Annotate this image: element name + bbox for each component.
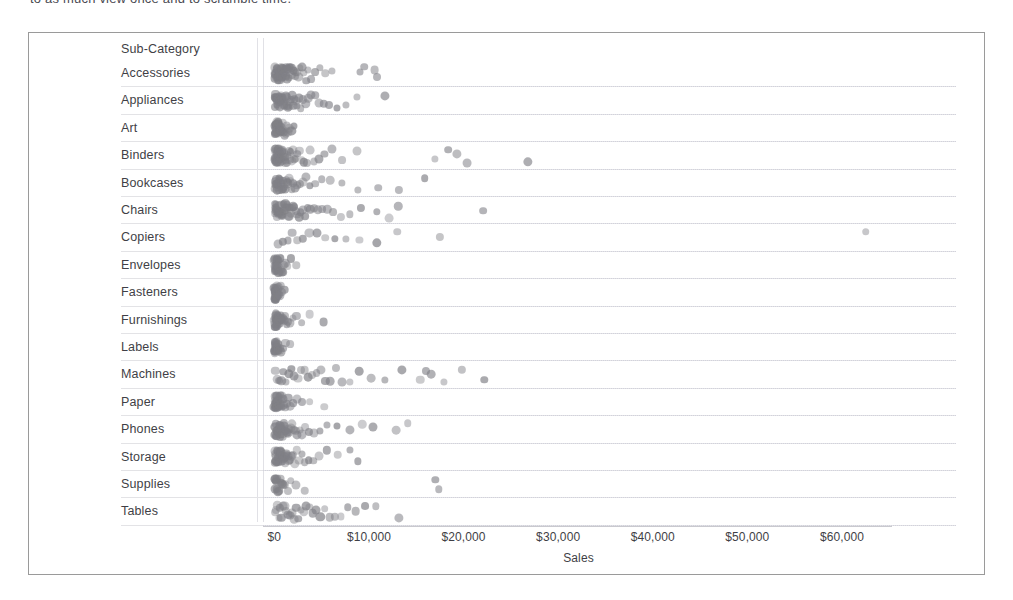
data-point[interactable] bbox=[368, 422, 377, 431]
data-point[interactable] bbox=[331, 235, 338, 242]
data-point[interactable] bbox=[306, 398, 314, 406]
data-point[interactable] bbox=[360, 63, 368, 71]
category-label-chairs[interactable]: Chairs bbox=[121, 197, 158, 224]
data-point[interactable] bbox=[395, 186, 403, 194]
data-point[interactable] bbox=[333, 104, 340, 111]
category-label-furnishings[interactable]: Furnishings bbox=[121, 307, 187, 334]
data-point[interactable] bbox=[463, 158, 472, 167]
data-point[interactable] bbox=[292, 480, 301, 489]
category-label-bookcases[interactable]: Bookcases bbox=[121, 170, 184, 197]
data-point[interactable] bbox=[333, 450, 342, 459]
data-point[interactable] bbox=[432, 476, 439, 483]
category-label-copiers[interactable]: Copiers bbox=[121, 224, 165, 251]
data-point[interactable] bbox=[358, 420, 367, 429]
data-point[interactable] bbox=[384, 213, 393, 222]
data-point[interactable] bbox=[284, 262, 292, 270]
data-point[interactable] bbox=[300, 487, 309, 496]
category-label-paper[interactable]: Paper bbox=[121, 389, 155, 416]
data-point[interactable] bbox=[366, 374, 375, 383]
data-point[interactable] bbox=[416, 376, 425, 385]
data-point[interactable] bbox=[291, 122, 298, 129]
category-label-tables[interactable]: Tables bbox=[121, 498, 158, 525]
data-point[interactable] bbox=[322, 234, 330, 242]
data-point[interactable] bbox=[372, 238, 381, 247]
data-point[interactable] bbox=[316, 427, 323, 434]
data-point[interactable] bbox=[323, 446, 331, 454]
category-label-binders[interactable]: Binders bbox=[121, 142, 164, 169]
data-point[interactable] bbox=[373, 208, 380, 215]
category-label-art[interactable]: Art bbox=[121, 115, 137, 142]
data-point[interactable] bbox=[338, 179, 345, 186]
data-point[interactable] bbox=[354, 187, 361, 194]
data-point[interactable] bbox=[315, 451, 324, 460]
data-point[interactable] bbox=[298, 450, 305, 457]
data-point[interactable] bbox=[354, 458, 361, 465]
data-point[interactable] bbox=[862, 228, 870, 236]
category-label-appliances[interactable]: Appliances bbox=[121, 87, 184, 114]
data-point[interactable] bbox=[337, 213, 345, 221]
data-point[interactable] bbox=[305, 310, 314, 319]
category-label-machines[interactable]: Machines bbox=[121, 361, 176, 388]
data-point[interactable] bbox=[380, 91, 389, 100]
data-point[interactable] bbox=[316, 512, 325, 521]
data-point[interactable] bbox=[293, 374, 302, 383]
data-point[interactable] bbox=[286, 340, 294, 348]
data-point[interactable] bbox=[295, 147, 303, 155]
data-point[interactable] bbox=[343, 235, 350, 242]
category-label-fasteners[interactable]: Fasteners bbox=[121, 279, 178, 306]
data-point[interactable] bbox=[292, 261, 300, 269]
data-point[interactable] bbox=[427, 370, 436, 379]
data-point[interactable] bbox=[353, 93, 360, 100]
data-point[interactable] bbox=[332, 364, 340, 372]
data-point[interactable] bbox=[394, 228, 401, 235]
data-point[interactable] bbox=[307, 75, 315, 83]
data-point[interactable] bbox=[321, 505, 329, 513]
category-label-envelopes[interactable]: Envelopes bbox=[121, 252, 181, 279]
data-point[interactable] bbox=[321, 151, 328, 158]
data-point[interactable] bbox=[392, 425, 401, 434]
data-point[interactable] bbox=[326, 377, 335, 386]
data-point[interactable] bbox=[346, 211, 353, 218]
data-point[interactable] bbox=[284, 237, 291, 244]
category-label-accessories[interactable]: Accessories bbox=[121, 60, 190, 87]
category-label-supplies[interactable]: Supplies bbox=[121, 471, 170, 498]
data-point[interactable] bbox=[397, 365, 406, 374]
data-point[interactable] bbox=[372, 503, 379, 510]
data-point[interactable] bbox=[523, 157, 532, 166]
category-label-phones[interactable]: Phones bbox=[121, 416, 164, 443]
data-point[interactable] bbox=[295, 515, 303, 523]
data-point[interactable] bbox=[481, 376, 488, 383]
data-point[interactable] bbox=[355, 367, 364, 376]
data-point[interactable] bbox=[375, 184, 383, 192]
data-point[interactable] bbox=[480, 207, 488, 215]
data-point[interactable] bbox=[320, 403, 328, 411]
data-point[interactable] bbox=[357, 204, 365, 212]
data-point[interactable] bbox=[312, 229, 321, 238]
data-point[interactable] bbox=[326, 176, 335, 185]
data-point[interactable] bbox=[421, 174, 429, 182]
data-point[interactable] bbox=[333, 422, 340, 429]
data-point[interactable] bbox=[343, 101, 350, 108]
data-point[interactable] bbox=[356, 236, 363, 243]
data-point[interactable] bbox=[352, 147, 361, 156]
data-point[interactable] bbox=[373, 73, 381, 81]
data-point[interactable] bbox=[361, 502, 369, 510]
data-point[interactable] bbox=[301, 212, 309, 220]
data-point[interactable] bbox=[458, 366, 466, 374]
data-point[interactable] bbox=[346, 447, 353, 454]
data-point[interactable] bbox=[298, 398, 306, 406]
data-point[interactable] bbox=[301, 172, 310, 181]
data-point[interactable] bbox=[316, 365, 325, 374]
data-point[interactable] bbox=[318, 175, 326, 183]
data-point[interactable] bbox=[345, 425, 354, 434]
data-point[interactable] bbox=[328, 144, 337, 153]
data-point[interactable] bbox=[452, 149, 461, 158]
data-point[interactable] bbox=[440, 378, 447, 385]
data-point[interactable] bbox=[339, 156, 347, 164]
data-point[interactable] bbox=[306, 146, 315, 155]
data-point[interactable] bbox=[282, 378, 289, 385]
data-point[interactable] bbox=[435, 485, 442, 492]
data-point[interactable] bbox=[394, 202, 402, 210]
data-point[interactable] bbox=[284, 487, 292, 495]
data-point[interactable] bbox=[329, 68, 336, 75]
